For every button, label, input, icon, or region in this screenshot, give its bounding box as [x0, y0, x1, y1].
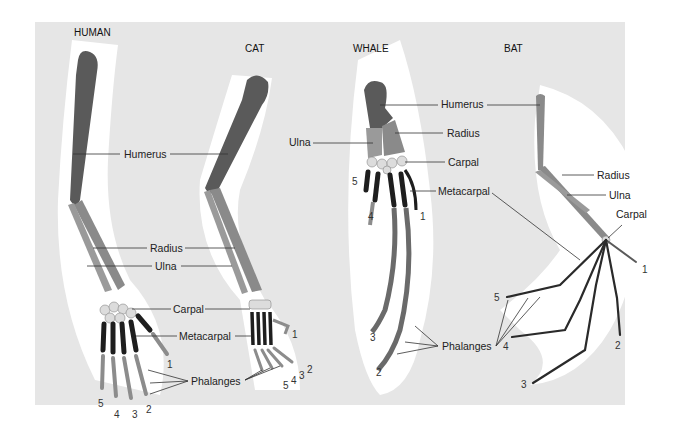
human-digit-3: 3 [132, 409, 138, 420]
label-phalanges-whale-bat: Phalanges [442, 340, 492, 352]
label-radius-human-cat: Radius [150, 242, 183, 254]
label-carpal-bat: Carpal [616, 208, 647, 220]
label-humerus-human-cat: Humerus [124, 148, 167, 160]
label-humerus-whale-bat: Humerus [441, 98, 484, 110]
cat-digit-2: 2 [307, 364, 313, 375]
human-digit-1: 1 [167, 359, 173, 370]
human-digit-2: 2 [146, 404, 152, 415]
whale-digit-3: 3 [370, 332, 376, 343]
label-carpal-human-cat: Carpal [173, 303, 204, 315]
label-ulna-bat: Ulna [609, 189, 631, 201]
bat-digit-2: 2 [615, 340, 621, 351]
title-whale: WHALE [353, 43, 389, 54]
bat-digit-4: 4 [503, 341, 509, 352]
bat-digit-3: 3 [521, 379, 527, 390]
label-radius-bat: Radius [597, 169, 630, 181]
label-carpal-whale: Carpal [448, 156, 479, 168]
title-bat: BAT [504, 43, 523, 54]
whale-digit-1: 1 [420, 211, 426, 222]
title-cat: CAT [245, 43, 264, 54]
cat-digit-3: 3 [299, 370, 305, 381]
title-human: HUMAN [74, 27, 111, 38]
label-ulna-human-cat: Ulna [155, 260, 177, 272]
label-phalanges-human-cat: Phalanges [191, 375, 241, 387]
cat-digit-5: 5 [283, 380, 289, 391]
bat-digit-5: 5 [494, 292, 500, 303]
bat-digit-1: 1 [642, 264, 648, 275]
human-digit-5: 5 [98, 398, 104, 409]
cat-digit-4: 4 [291, 375, 297, 386]
human-digit-4: 4 [114, 409, 120, 420]
label-ulna-whale: Ulna [289, 136, 311, 148]
cat-carpals [249, 300, 271, 309]
cat-digit-1: 1 [292, 329, 298, 340]
whale-digit-5: 5 [352, 176, 358, 187]
whale-digit-4: 4 [368, 211, 374, 222]
homologous-limbs-diagram: HUMAN CAT WHALE BAT Humerus Radius Ulna … [0, 0, 687, 435]
label-metacarpal-human-cat: Metacarpal [179, 330, 231, 342]
label-metacarpal-whale-bat: Metacarpal [438, 185, 490, 197]
label-radius-whale: Radius [447, 127, 480, 139]
whale-digit-2: 2 [376, 367, 382, 378]
